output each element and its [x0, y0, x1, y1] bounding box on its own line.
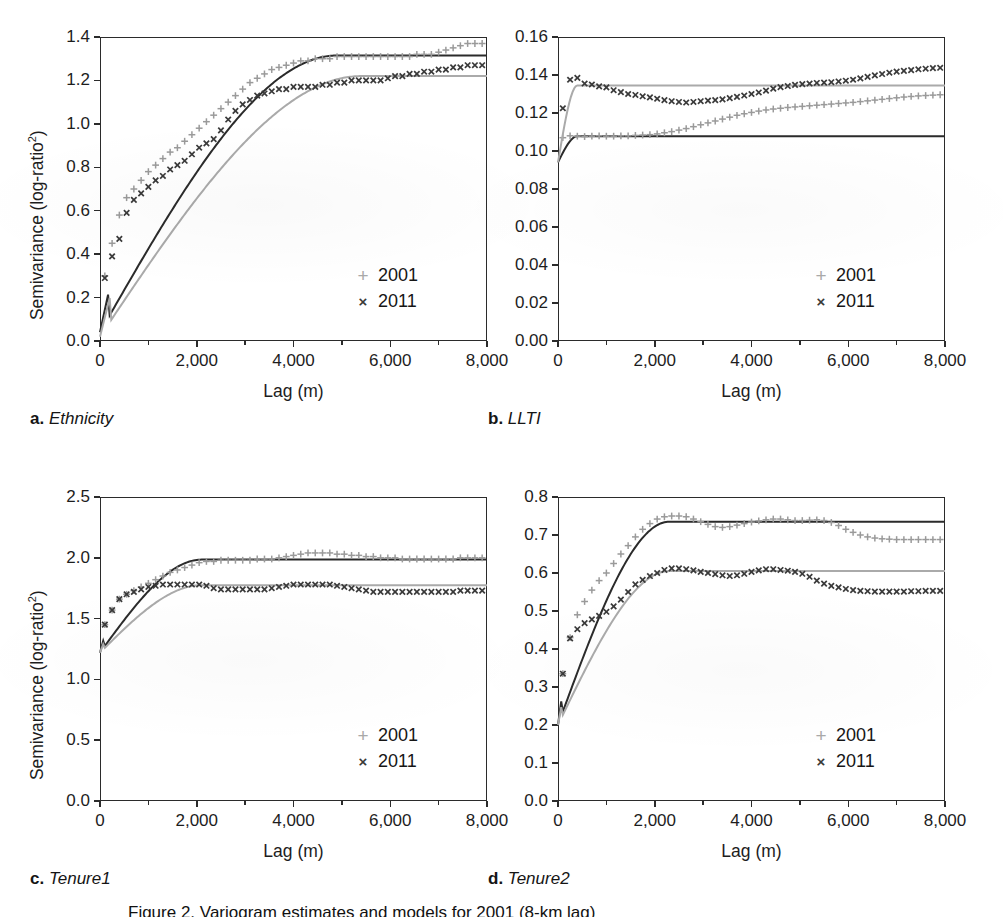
markers-2011: [102, 582, 485, 628]
semivariogram-figure: Semivariance (log-ratio2) Lag (m) a. Eth…: [0, 0, 1003, 917]
markers-2011: [560, 566, 943, 677]
model-curve-2001: [100, 55, 487, 332]
series-layer: [0, 460, 500, 917]
model-curve-2001: [100, 560, 487, 653]
model-curve-2001: [558, 136, 945, 162]
series-layer: [458, 460, 1003, 917]
model-curve-2011: [100, 76, 487, 337]
markers-2011: [560, 65, 943, 111]
markers-2001: [559, 513, 943, 678]
panel-b-llti: Lag (m) b. LLTI + 2001 × 2011 0.000.020.…: [458, 0, 1003, 450]
model-curve-2001: [558, 522, 945, 725]
model-curve-2011: [100, 585, 487, 652]
figure-caption: Figure 2. Variogram estimates and models…: [128, 903, 748, 917]
markers-2001: [559, 91, 943, 141]
series-layer: [0, 0, 500, 450]
model-curve-2011: [558, 85, 945, 162]
panel-c-tenure1: Semivariance (log-ratio2) Lag (m) c. Ten…: [0, 460, 500, 917]
panel-a-ethnicity: Semivariance (log-ratio2) Lag (m) a. Eth…: [0, 0, 500, 450]
markers-2001: [101, 550, 485, 629]
series-layer: [458, 0, 1003, 450]
panel-d-tenure2: Lag (m) d. Tenure2 + 2001 × 2011 0.00.10…: [458, 460, 1003, 917]
